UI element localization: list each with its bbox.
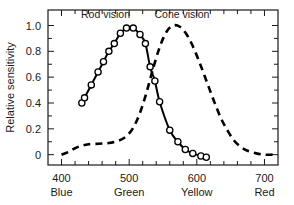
y-tick-label: 0.8 [26,45,41,57]
y-tick-label: 1.0 [26,20,41,32]
x-tick-sublabel: Red [254,186,274,198]
data-point-marker [106,48,112,54]
data-point-marker [111,40,117,46]
data-point-marker [175,139,181,145]
data-point-marker [100,59,106,65]
x-tick-label: 700 [255,172,273,184]
x-tick-sublabel: Green [114,186,145,198]
series-annotation-cone: Cone vision [155,8,210,20]
series-line-cone [62,25,273,155]
spectral-sensitivity-chart: 00.20.40.60.81.0400Blue500Green600Yellow… [0,0,294,205]
data-point-marker [88,82,94,88]
data-point-marker [203,154,209,160]
data-point-marker [95,69,101,75]
data-point-marker [81,95,87,101]
chart-figure: 00.20.40.60.81.0400Blue500Green600Yellow… [0,0,294,205]
x-tick-label: 400 [52,172,70,184]
data-point-marker [142,40,148,46]
series-annotation-rod: Rod vision [81,8,130,20]
y-tick-label: 0.6 [26,71,41,83]
plot-frame [48,10,278,165]
data-point-marker [182,146,188,152]
data-point-marker [152,78,158,84]
data-point-marker [147,64,153,70]
x-tick-sublabel: Blue [51,186,73,198]
y-axis-title: Relative sensitivity [4,42,16,133]
y-tick-label: 0.4 [26,97,41,109]
data-point-marker [167,127,173,133]
data-point-marker [137,31,143,37]
data-point-marker [157,99,163,105]
data-point-marker [130,25,136,31]
x-tick-label: 600 [188,172,206,184]
y-tick-label: 0.2 [26,123,41,135]
y-tick-label: 0 [35,149,41,161]
data-point-marker [117,30,123,36]
data-point-marker [190,150,196,156]
data-point-marker [123,25,129,31]
x-tick-sublabel: Yellow [181,186,212,198]
x-tick-label: 500 [120,172,138,184]
